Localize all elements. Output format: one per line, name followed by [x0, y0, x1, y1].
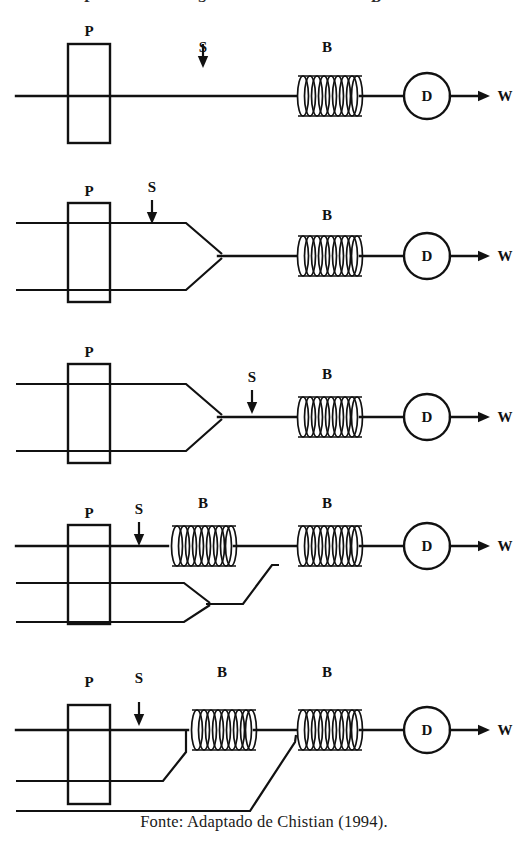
row1-pump-box: [68, 44, 110, 143]
row4-label-b1: B: [198, 495, 208, 511]
row5-pump-box: [68, 705, 110, 804]
row2-pump-box: [68, 203, 110, 302]
row1-waste-arrowhead: [478, 91, 490, 101]
row1-label-p: P: [84, 23, 93, 39]
row5-reaction-coil-2: [298, 710, 363, 750]
row4-label-s: S: [135, 501, 143, 517]
row-config-5: P S B B D: [16, 664, 513, 811]
row3-waste-arrowhead: [478, 412, 490, 422]
row5-label-p: P: [84, 674, 93, 690]
row3-label-p: P: [84, 344, 93, 360]
row2-reaction-coil: [298, 236, 363, 276]
row5-label-b2: B: [322, 664, 332, 680]
flow-injection-manifold-diagram: P S B D W P S B: [0, 0, 528, 812]
row1-label-w: W: [498, 88, 513, 104]
row5-reaction-coil-1: [192, 710, 257, 750]
row-config-4: P S B B D: [16, 495, 513, 624]
row-config-2: P S B D W: [16, 179, 513, 302]
row4-label-b2: B: [322, 495, 332, 511]
row1-reaction-coil: [298, 76, 363, 116]
row-config-1: P S B D W: [16, 23, 513, 143]
row2-waste-arrowhead: [478, 251, 490, 261]
row4-channel-3: [16, 605, 210, 622]
row4-label-p: P: [84, 505, 93, 521]
row1-label-d: D: [422, 88, 433, 104]
row2-label-d: D: [422, 248, 433, 264]
row3-sample-arrow: [247, 390, 257, 414]
row3-label-d: D: [422, 409, 433, 425]
row4-confluence-riser: [206, 565, 279, 604]
figure-source-caption: Fonte: Adaptado de Chistian (1994).: [0, 812, 528, 832]
row4-pump-box: [68, 525, 110, 624]
row2-channel-2: [16, 258, 222, 290]
row4-label-w: W: [498, 538, 513, 554]
row4-reaction-coil-1: [172, 526, 237, 566]
row4-sample-arrow: [134, 522, 144, 546]
row4-waste-arrowhead: [478, 541, 490, 551]
row2-sample-arrow: [147, 200, 157, 224]
row5-label-d: D: [422, 722, 433, 738]
row2-label-b: B: [322, 207, 332, 223]
row5-label-w: W: [498, 722, 513, 738]
row2-channel-1: [16, 223, 222, 254]
row3-pump-box: [68, 364, 110, 463]
figure-stage: P S B: [0, 0, 528, 846]
row3-label-w: W: [498, 409, 513, 425]
row5-label-b1: B: [217, 664, 227, 680]
row4-label-d: D: [422, 538, 433, 554]
row4-reaction-coil-2: [298, 526, 363, 566]
row-config-3: P S B D W: [16, 344, 513, 463]
row3-reaction-coil: [298, 397, 363, 437]
row2-label-s: S: [148, 179, 156, 195]
row5-channel-2: [16, 731, 186, 781]
row5-sample-arrow: [134, 702, 144, 726]
row2-label-p: P: [84, 183, 93, 199]
row4-channel-2: [16, 583, 210, 603]
row3-channel-1: [16, 384, 222, 415]
row1-label-b: B: [322, 39, 332, 55]
row5-label-s: S: [135, 670, 143, 686]
row3-label-b: B: [322, 366, 332, 382]
row2-label-w: W: [498, 248, 513, 264]
row3-label-s: S: [248, 369, 256, 385]
row5-waste-arrowhead: [478, 725, 490, 735]
row3-channel-2: [16, 419, 222, 451]
